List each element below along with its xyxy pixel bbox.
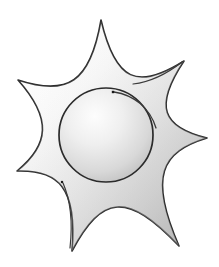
- lower-left-dot: [61, 181, 63, 183]
- drawing-canvas: Sun burst star drawing: [0, 0, 219, 267]
- sun-burst-illustration: Sun burst star drawing: [0, 0, 219, 267]
- upper-dot: [112, 91, 114, 93]
